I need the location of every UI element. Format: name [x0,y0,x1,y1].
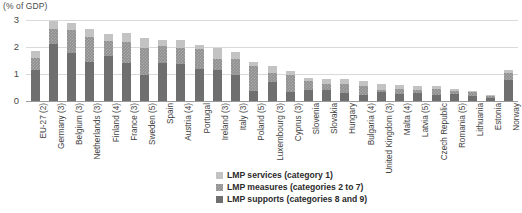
bar-column[interactable] [195,45,204,101]
bar-column[interactable] [359,81,368,101]
bar-segment [158,63,167,101]
bar-column[interactable] [286,71,295,101]
bar-column[interactable] [104,34,113,101]
bar-segment [176,64,185,101]
bar-column[interactable] [140,38,149,101]
bar-segment [377,92,386,101]
bar-segment [231,59,240,76]
legend-swatch-supports [216,196,223,203]
lmp-expenditure-chart: (% of GDP) 0123 EU-27 (2)Germany (3)Belg… [0,0,522,213]
bar-segment [158,46,167,63]
bar-column[interactable] [249,62,258,101]
bar-segment [413,93,422,101]
bar-segment [322,90,331,101]
bar-segment [67,23,76,30]
bar-segment [286,75,295,91]
y-axis-title: (% of GDP) [3,1,47,11]
bar-segment [31,70,40,101]
legend-label: LMP measures (categories 2 to 7) [227,182,363,192]
y-axis-tick-label: 3 [14,15,19,25]
x-axis-tick-label: Hungary [348,103,357,134]
bar-column[interactable] [377,84,386,101]
bar-column[interactable] [85,29,94,101]
legend-swatch-services [216,172,223,179]
bar-segment [176,48,185,64]
bar-segment [286,92,295,101]
bar-segment [49,21,58,29]
bar-column[interactable] [67,23,76,101]
bar-segment [249,66,258,91]
bar-column[interactable] [176,40,185,101]
bar-column[interactable] [231,52,240,101]
bar-segment [140,38,149,48]
y-axis-tick-labels: 0123 [0,20,26,101]
legend-item[interactable]: LMP measures (categories 2 to 7) [216,182,367,192]
x-axis-tick-label: Estonia [494,103,503,130]
bar-column[interactable] [122,33,131,101]
x-axis-tick-label: France (3) [130,103,139,141]
bar-segment [49,44,58,101]
bar-column[interactable] [468,91,477,101]
bar-segment [268,82,277,101]
bar-segment [468,96,477,101]
bar-segment [231,75,240,101]
bar-segment [504,73,513,80]
x-axis-tick-label: Finland (4) [112,103,121,142]
x-axis-tick-label: EU-27 (2) [39,103,48,139]
bar-column[interactable] [49,21,58,101]
x-axis-tick-label: Lithuania [476,103,485,136]
x-axis-tick-label: Slovenia [312,103,321,134]
bar-segment [104,34,113,41]
bar-segment [195,69,204,101]
x-axis-tick-label: United Kingdom (3) [385,103,394,174]
bar-column[interactable] [213,48,222,101]
bar-column[interactable] [432,86,441,101]
x-axis-tick-label: Czech Republic [440,103,449,160]
bar-segment [31,51,40,58]
bar-column[interactable] [413,86,422,101]
x-axis-tick-label: Austria (4) [184,103,193,141]
chart-legend: LMP services (category 1)LMP measures (c… [216,170,367,204]
legend-swatch-measures [216,184,223,191]
bar-column[interactable] [504,70,513,101]
legend-item[interactable]: LMP services (category 1) [216,170,367,180]
bar-column[interactable] [486,95,495,101]
x-axis-tick-label: Latvia (5) [421,103,430,137]
x-axis-tick-label: Belgium (3) [75,103,84,145]
legend-label: LMP services (category 1) [227,170,333,180]
bar-segment [340,84,349,93]
x-axis-tick-label: Spain [166,103,175,124]
bar-segment [268,66,277,73]
x-axis-tick-label: Romania (5) [458,103,467,148]
bar-column[interactable] [340,79,349,101]
bar-segment [195,49,204,69]
bar-segment [104,56,113,101]
x-axis-tick-label: Sweden (5) [148,103,157,145]
bar-column[interactable] [31,51,40,101]
bar-segment [304,81,313,90]
bar-segment [67,53,76,101]
bar-segment [122,42,131,62]
bar-column[interactable] [395,85,404,101]
bar-segment [140,48,149,75]
x-axis-tick-label: Netherlands (3) [93,103,102,159]
legend-item[interactable]: LMP supports (categories 8 and 9) [216,194,367,204]
bar-segment [140,75,149,101]
bar-segment [249,91,258,101]
bar-segment [85,62,94,101]
bar-segment [213,59,222,70]
bar-column[interactable] [322,79,331,101]
bar-segment [122,33,131,42]
bar-segment [213,48,222,58]
bar-column[interactable] [268,66,277,101]
bar-column[interactable] [304,78,313,101]
x-axis-tick-label: Ireland (3) [221,103,230,140]
x-axis-tick-label: Slovakia [330,103,339,134]
x-axis-tick-label: Norway [512,103,521,131]
bar-column[interactable] [450,89,459,101]
bar-segment [85,37,94,62]
x-axis-tick-label: Malta (4) [403,103,412,135]
bar-column[interactable] [158,40,167,101]
bar-segment [359,95,368,101]
bar-segment [432,95,441,101]
